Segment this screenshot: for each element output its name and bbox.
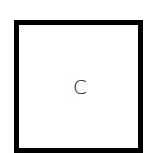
letter-card: C — [14, 20, 143, 153]
card-letter: C — [73, 77, 87, 97]
